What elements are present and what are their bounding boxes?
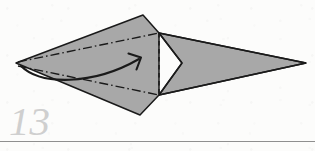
origami-diagram-page: 13	[0, 0, 315, 151]
step-number-label: 13	[9, 101, 50, 142]
